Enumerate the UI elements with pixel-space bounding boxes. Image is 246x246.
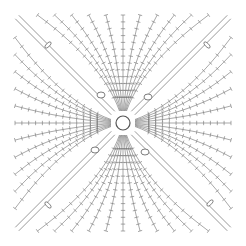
stitch-tick bbox=[117, 76, 121, 77]
stitch-tick bbox=[87, 230, 91, 232]
stitch-tick bbox=[127, 63, 131, 64]
stitch-tick bbox=[190, 113, 191, 117]
stitch-tick bbox=[162, 216, 166, 219]
stitch-tick bbox=[189, 144, 191, 148]
stitch-column bbox=[135, 38, 231, 120]
corner-loop bbox=[141, 149, 149, 155]
stitch-tick bbox=[126, 176, 130, 177]
stitch-column bbox=[15, 124, 111, 140]
stitch-tick bbox=[130, 196, 134, 197]
stitch-tick bbox=[168, 104, 170, 108]
stitch-column bbox=[135, 124, 231, 140]
stitch-tick bbox=[20, 198, 24, 201]
stitch-tick bbox=[189, 98, 191, 102]
stitch-tick bbox=[70, 115, 71, 119]
stitch-column bbox=[135, 106, 231, 122]
stitch-tick bbox=[76, 125, 77, 129]
stitch-tick bbox=[55, 90, 58, 94]
center-ring bbox=[116, 116, 130, 130]
stitch-tick bbox=[125, 76, 129, 77]
stitch-diagram bbox=[0, 0, 246, 246]
stitch-tick bbox=[207, 13, 210, 17]
stitch-tick bbox=[41, 90, 43, 94]
stitch-tick bbox=[115, 70, 119, 71]
stitch-tick bbox=[148, 196, 152, 198]
stitch-tick bbox=[82, 104, 84, 108]
stitch-tick bbox=[176, 115, 177, 119]
stitch-tick bbox=[230, 70, 233, 73]
stitch-tick bbox=[48, 148, 50, 152]
corner-chain-line bbox=[135, 19, 231, 115]
stitch-tick bbox=[76, 143, 78, 147]
stitch-tick bbox=[90, 189, 94, 192]
stitch-tick bbox=[95, 182, 99, 184]
stitch-tick bbox=[36, 229, 39, 233]
stitch-tick bbox=[216, 162, 219, 166]
stitch-tick bbox=[99, 76, 103, 78]
stitch-tick bbox=[114, 63, 118, 64]
stitch-tick bbox=[157, 209, 161, 211]
stitch-tick bbox=[148, 175, 152, 178]
stitch-tick bbox=[41, 153, 43, 157]
stitch-tick bbox=[196, 94, 198, 98]
stitch-tick bbox=[70, 230, 73, 233]
stitch-tick bbox=[70, 14, 73, 17]
stitch-tick bbox=[169, 117, 170, 121]
stitch-tick bbox=[81, 27, 85, 30]
stitch-column bbox=[106, 15, 122, 111]
stitch-tick bbox=[230, 173, 233, 176]
stitch-tick bbox=[113, 190, 117, 191]
stitch-tick bbox=[182, 95, 184, 99]
stitch-tick bbox=[139, 168, 143, 170]
stitch-tick bbox=[95, 62, 99, 64]
stitch-tick bbox=[94, 196, 98, 198]
stitch-tick bbox=[167, 21, 171, 24]
corner-chain-line bbox=[135, 131, 231, 227]
stitch-tick bbox=[141, 182, 145, 184]
stitch-tick bbox=[69, 94, 72, 98]
stitch-tick bbox=[143, 168, 147, 170]
stitch-tick bbox=[152, 55, 156, 58]
stitch-tick bbox=[62, 95, 64, 99]
stitch-column bbox=[124, 15, 140, 111]
stitch-tick bbox=[144, 189, 148, 191]
stitch-tick bbox=[94, 175, 98, 178]
stitch-tick bbox=[144, 55, 148, 57]
stitch-tick bbox=[183, 114, 184, 118]
stitch-tick bbox=[56, 129, 57, 133]
stitch-tick bbox=[76, 99, 78, 103]
stitch-tick bbox=[196, 130, 197, 134]
stitch-column bbox=[106, 135, 122, 231]
stitch-tick bbox=[87, 14, 91, 16]
corner-chain-line bbox=[15, 131, 111, 227]
corner-loop bbox=[91, 147, 99, 153]
stitch-column bbox=[127, 135, 209, 231]
stitch-column bbox=[124, 135, 140, 231]
stitch-tick bbox=[129, 190, 133, 191]
stitch-tick bbox=[175, 148, 178, 152]
stitch-tick bbox=[148, 69, 152, 72]
stitch-tick bbox=[21, 75, 24, 79]
stitch-tick bbox=[147, 62, 151, 64]
stitch-tick bbox=[138, 161, 142, 163]
stitch-tick bbox=[143, 76, 147, 78]
crochet-chart bbox=[0, 0, 246, 246]
stitch-tick bbox=[114, 183, 118, 184]
stitch-tick bbox=[14, 70, 17, 73]
stitch-tick bbox=[175, 100, 177, 104]
stitch-tick bbox=[69, 100, 71, 104]
stitch-tick bbox=[100, 69, 104, 71]
stitch-tick bbox=[189, 90, 192, 94]
stitch-tick bbox=[27, 162, 30, 166]
stitch-tick bbox=[21, 167, 24, 171]
stitch-tick bbox=[196, 112, 197, 116]
stitch-tick bbox=[62, 147, 64, 151]
stitch-tick bbox=[36, 13, 39, 17]
stitch-tick bbox=[94, 69, 98, 72]
stitch-tick bbox=[126, 70, 130, 71]
stitch-tick bbox=[153, 41, 157, 43]
stitch-column bbox=[127, 15, 209, 111]
stitch-tick bbox=[104, 76, 108, 78]
stitch-tick bbox=[209, 85, 211, 89]
stitch-tick bbox=[229, 207, 233, 210]
